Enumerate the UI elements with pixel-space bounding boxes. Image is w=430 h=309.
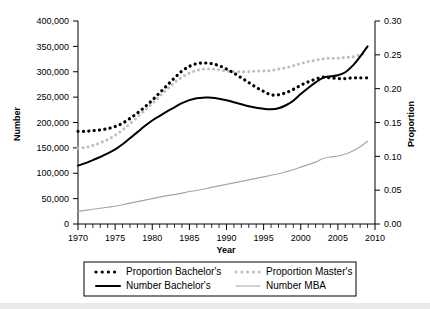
y-axis-right-title: Proportion [406, 101, 416, 147]
legend-label: Number MBA [266, 280, 326, 291]
y2-tick-label: 0.25 [384, 50, 402, 60]
x-axis-ticks: 197019751980198519901995200020052010 [68, 224, 385, 243]
x-tick-label: 2000 [291, 233, 311, 243]
y-tick-label: 200,000 [36, 118, 69, 128]
chart-canvas: 050,000100,000150,000200,000250,000300,0… [0, 0, 430, 309]
series-path [78, 141, 368, 211]
y-tick-label: 250,000 [36, 92, 69, 102]
y-tick-label: 0 [64, 219, 69, 229]
x-tick-label: 1985 [179, 233, 199, 243]
y2-tick-label: 0.10 [384, 152, 402, 162]
y-tick-label: 50,000 [41, 194, 69, 204]
data-series-group [78, 46, 368, 211]
legend: Proportion Bachelor'sProportion Master's… [84, 262, 356, 296]
y-tick-label: 100,000 [36, 168, 69, 178]
y-tick-label: 350,000 [36, 42, 69, 52]
legend-label: Number Bachelor's [126, 280, 211, 291]
y-tick-label: 300,000 [36, 67, 69, 77]
y2-tick-label: 0.30 [384, 16, 402, 26]
y-axis-left-title: Number [12, 107, 22, 142]
x-tick-label: 2005 [328, 233, 348, 243]
x-tick-label: 1975 [105, 233, 125, 243]
x-axis-title: Year [216, 245, 236, 255]
x-tick-label: 1970 [68, 233, 88, 243]
legend-label: Proportion Bachelor's [126, 266, 221, 277]
y2-tick-label: 0.15 [384, 118, 402, 128]
y-tick-label: 400,000 [36, 16, 69, 26]
x-tick-label: 2010 [365, 233, 385, 243]
series-path [78, 46, 368, 165]
x-tick-label: 1990 [216, 233, 236, 243]
y2-tick-label: 0.05 [384, 185, 402, 195]
y2-tick-label: 0.00 [384, 219, 402, 229]
y2-tick-label: 0.20 [384, 84, 402, 94]
x-tick-label: 1995 [254, 233, 274, 243]
y-axis-left-ticks: 050,000100,000150,000200,000250,000300,0… [36, 16, 78, 229]
figure-container: 050,000100,000150,000200,000250,000300,0… [0, 0, 430, 309]
y-tick-label: 150,000 [36, 143, 69, 153]
x-tick-label: 1980 [142, 233, 162, 243]
series-path [78, 63, 368, 131]
caption-artifact [0, 303, 430, 309]
y-axis-right-ticks: 0.000.050.100.150.200.250.30 [375, 16, 402, 229]
axes-group [78, 21, 375, 224]
legend-label: Proportion Master's [266, 266, 352, 277]
